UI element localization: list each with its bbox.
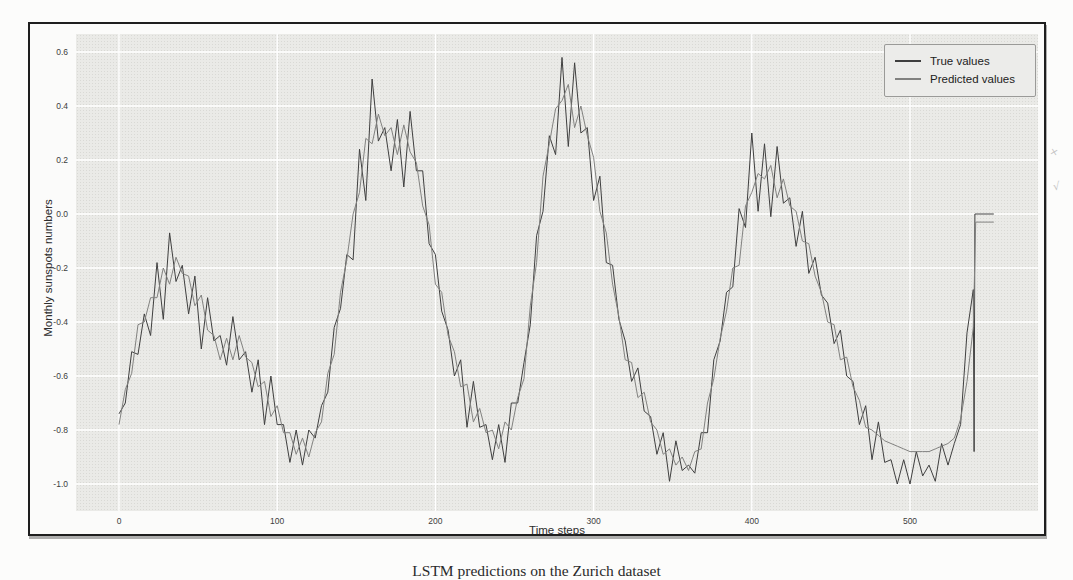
y-tick-label: -0.6 [38, 371, 68, 381]
legend: True values Predicted values [884, 44, 1036, 97]
legend-entry-predicted: Predicted values [895, 70, 1025, 88]
pencil-margin-mark: × [1049, 145, 1060, 158]
figure-caption: LSTM predictions on the Zurich dataset [0, 562, 1073, 580]
legend-label-predicted: Predicted values [930, 73, 1015, 85]
pencil-margin-mark: √ [1052, 180, 1061, 194]
x-tick-label: 0 [117, 516, 122, 526]
y-tick-label: 0.2 [38, 155, 68, 165]
x-tick-label: 400 [745, 516, 759, 526]
legend-label-true: True values [930, 55, 990, 67]
figure-frame: 0.60.40.20.0-0.2-0.4-0.6-0.8-1.0 0100200… [28, 22, 1046, 536]
y-tick-label: -1.0 [38, 479, 68, 489]
y-axis-label: Monthly sunspots numbers [42, 188, 54, 348]
x-tick-label: 200 [428, 516, 442, 526]
plot-svg [30, 24, 1044, 534]
true-values-line-swatch [895, 60, 921, 62]
x-axis-label: Time steps [492, 524, 622, 536]
x-tick-label: 100 [270, 516, 284, 526]
series-line-true-values [119, 57, 994, 484]
y-tick-label: -0.8 [38, 425, 68, 435]
y-tick-label: 0.4 [38, 101, 68, 111]
x-tick-label: 500 [903, 516, 917, 526]
legend-entry-true: True values [895, 52, 1025, 70]
predicted-values-line-swatch [895, 78, 921, 80]
y-tick-label: 0.6 [38, 47, 68, 57]
